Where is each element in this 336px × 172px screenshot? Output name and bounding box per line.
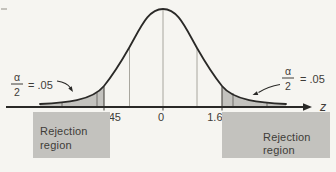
z-axis-label: z bbox=[319, 100, 327, 114]
right-rejection-label-line1: Rejection bbox=[263, 131, 311, 143]
left-alpha-value: = .05 bbox=[28, 79, 53, 91]
left-rejection-label-line1: Rejection bbox=[40, 125, 88, 137]
right-alpha-denominator: 2 bbox=[285, 80, 291, 92]
left-rejection-label-line2: region bbox=[40, 139, 72, 151]
right-rejection-label-line2: region bbox=[263, 144, 295, 156]
left-alpha-numerator: α bbox=[14, 71, 20, 83]
normal-curve-diagram: z −1.645 0 1.645 Rejection region Reject… bbox=[0, 0, 336, 172]
scan-artifact bbox=[1, 8, 7, 10]
right-alpha-numerator: α bbox=[285, 65, 291, 77]
left-alpha-denominator: 2 bbox=[14, 86, 20, 98]
figure-container: z −1.645 0 1.645 Rejection region Reject… bbox=[0, 0, 336, 172]
tick-label-zero: 0 bbox=[158, 111, 164, 123]
right-alpha-value: = .05 bbox=[300, 73, 325, 85]
